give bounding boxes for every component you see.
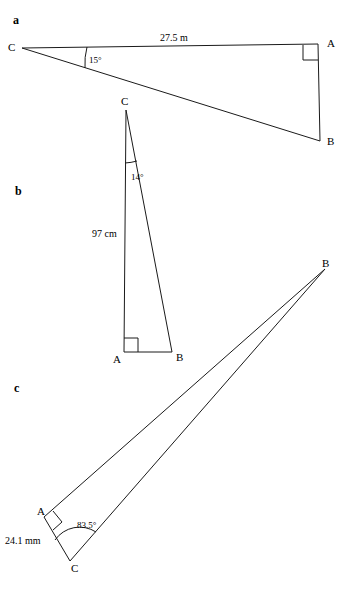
figure-canvas bbox=[0, 0, 349, 599]
right-angle-marker-b bbox=[124, 338, 138, 352]
vertex-label-c-A: A bbox=[37, 506, 45, 517]
segment-c-AC bbox=[44, 517, 70, 561]
angle-arc-a bbox=[85, 47, 87, 68]
right-angle-marker-a bbox=[303, 45, 318, 60]
segment-c-AB bbox=[44, 269, 325, 517]
angle-label-c: 83.5° bbox=[77, 521, 96, 530]
triangle-c bbox=[44, 269, 325, 561]
angle-label-a: 15° bbox=[89, 56, 102, 65]
vertex-label-a-C: C bbox=[8, 42, 15, 53]
triangle-a bbox=[22, 44, 320, 141]
side-length-c: 24.1 mm bbox=[5, 536, 41, 546]
angle-label-b: 14° bbox=[131, 173, 144, 182]
side-length-b: 97 cm bbox=[92, 229, 117, 239]
segment-b-CB bbox=[126, 110, 172, 352]
vertex-label-c-B: B bbox=[322, 258, 329, 269]
side-length-a: 27.5 m bbox=[160, 33, 188, 43]
triangle-b bbox=[124, 110, 172, 352]
vertex-label-a-B: B bbox=[327, 136, 334, 147]
part-label-b: b bbox=[15, 185, 22, 197]
vertex-label-c-C: C bbox=[71, 563, 78, 574]
vertex-label-b-C: C bbox=[121, 96, 128, 107]
segment-a-CB bbox=[22, 48, 320, 141]
vertex-label-b-A: A bbox=[113, 354, 121, 365]
vertex-label-a-A: A bbox=[327, 38, 335, 49]
right-angle-marker-c bbox=[53, 511, 62, 530]
segment-a-AB bbox=[318, 44, 320, 141]
vertex-label-b-B: B bbox=[176, 352, 183, 363]
segment-c-CB bbox=[70, 269, 325, 561]
segment-a-CA bbox=[22, 44, 318, 48]
segment-b-CA bbox=[124, 110, 126, 352]
geometry-figure: a b c C A B 27.5 m 15° C A B 97 cm 14° B… bbox=[0, 0, 349, 599]
part-label-c: c bbox=[14, 382, 19, 394]
part-label-a: a bbox=[13, 14, 19, 26]
angle-arc-b bbox=[125, 161, 137, 163]
